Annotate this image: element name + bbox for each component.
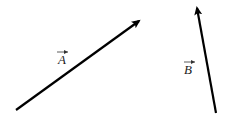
- vector-a-label: A: [57, 52, 66, 67]
- vector-diagram: A B: [0, 0, 231, 119]
- vector-b-arrow: [197, 8, 216, 113]
- vector-a: A: [16, 21, 139, 110]
- vector-a-arrow: [16, 21, 139, 110]
- vector-b: B: [184, 8, 216, 113]
- vector-b-label: B: [184, 62, 192, 77]
